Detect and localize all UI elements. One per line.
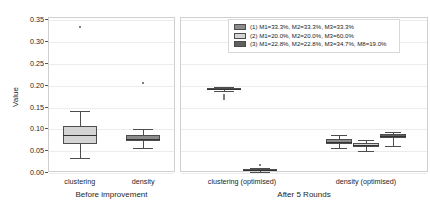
ytick-mark-6 — [45, 41, 48, 42]
legend-label-2: (2) M1=20.0%, M2=20.0%, M3=60.0% — [250, 32, 354, 41]
box-1-0-1-cap-upper — [250, 168, 270, 169]
gridline — [49, 64, 174, 65]
box-1-1-2-cap-upper — [385, 132, 400, 133]
panel-title-0: Before improvement — [75, 190, 147, 199]
gridline — [49, 108, 174, 109]
box-1-1-1-median — [353, 145, 379, 146]
legend-item-2[interactable]: (2) M1=20.0%, M2=20.0%, M3=60.0% — [234, 32, 394, 41]
ytick-label-5: 0.25 — [16, 58, 44, 67]
xtick-label-1-0: clustering (optimised) — [208, 177, 276, 186]
gridline — [49, 173, 174, 174]
box-0-0-0-whisker-upper — [80, 111, 81, 126]
xtick-label-0-1: density — [132, 177, 155, 186]
ytick-label-4: 0.20 — [16, 80, 44, 89]
legend-swatch-3 — [234, 41, 246, 47]
ytick-label-6: 0.30 — [16, 37, 44, 46]
box-0-0-0-cap-lower — [70, 158, 90, 159]
box-1-1-2-median — [380, 136, 406, 137]
box-1-1-0-cap-upper — [331, 135, 346, 136]
gridline — [181, 129, 427, 130]
gridline — [181, 151, 427, 152]
gridline — [181, 108, 427, 109]
box-0-1-0-cap-lower — [133, 148, 153, 149]
box-1-0-0-cap-lower — [214, 91, 234, 92]
box-1-1-1-cap-lower — [358, 151, 373, 152]
ytick-mark-5 — [45, 63, 48, 64]
y-axis-label: Value — [11, 87, 20, 107]
panel-title-1: After 5 Rounds — [277, 190, 330, 199]
gridline — [49, 42, 174, 43]
gridline — [49, 20, 174, 21]
box-0-1-0-median — [126, 139, 160, 140]
box-0-0-0-median — [63, 135, 97, 136]
legend-item-1[interactable]: (1) M1=33.3%, M2=33.3%, M3=33.3% — [234, 23, 394, 32]
legend-swatch-1 — [234, 24, 246, 30]
box-1-0-1-flier-0 — [259, 164, 261, 166]
box-1-0-0-flier-2 — [223, 98, 225, 100]
xtick-label-0-0: clustering — [64, 177, 95, 186]
ytick-label-2: 0.10 — [16, 124, 44, 133]
box-0-0-0-cap-upper — [70, 111, 90, 112]
ytick-label-7: 0.35 — [16, 15, 44, 24]
xtick-label-1-1: density (optimised) — [336, 177, 396, 186]
ytick-mark-1 — [45, 150, 48, 151]
gridline — [49, 151, 174, 152]
legend-swatch-2 — [234, 33, 246, 39]
legend-label-3: (3) M1=22.8%, M2=22.8%, M3=34.7%, M8=19.… — [250, 40, 387, 49]
box-1-1-0-cap-lower — [331, 148, 346, 149]
box-0-1-0-flier-0 — [142, 82, 144, 84]
box-1-1-2-cap-lower — [385, 146, 400, 147]
ytick-label-0: 0.00 — [16, 168, 44, 177]
box-1-0-0-cap-upper — [214, 87, 234, 88]
box-1-1-2-whisker-lower — [393, 138, 394, 145]
ytick-label-1: 0.05 — [16, 146, 44, 155]
box-0-0-0-whisker-lower — [80, 144, 81, 158]
ytick-mark-0 — [45, 172, 48, 173]
ytick-mark-3 — [45, 107, 48, 108]
box-1-1-0-median — [326, 142, 352, 143]
gridline — [181, 173, 427, 174]
ytick-mark-7 — [45, 19, 48, 20]
box-0-1-0-cap-upper — [133, 129, 153, 130]
legend-item-3[interactable]: (3) M1=22.8%, M2=22.8%, M3=34.7%, M8=19.… — [234, 40, 394, 49]
box-0-0-0-flier-0 — [79, 26, 81, 28]
chart-legend: (1) M1=33.3%, M2=33.3%, M3=33.3%(2) M1=2… — [228, 19, 400, 53]
legend-label-1: (1) M1=33.3%, M2=33.3%, M3=33.3% — [250, 23, 354, 32]
ytick-mark-2 — [45, 128, 48, 129]
ytick-label-3: 0.15 — [16, 102, 44, 111]
box-1-0-1-cap-lower — [250, 172, 270, 173]
gridline — [49, 86, 174, 87]
boxplot-figure: 0.000.050.100.150.200.250.300.35Valueclu… — [0, 0, 430, 216]
plot-panel-1 — [48, 17, 175, 172]
box-1-1-1-cap-upper — [358, 140, 373, 141]
gridline — [181, 64, 427, 65]
ytick-mark-4 — [45, 85, 48, 86]
